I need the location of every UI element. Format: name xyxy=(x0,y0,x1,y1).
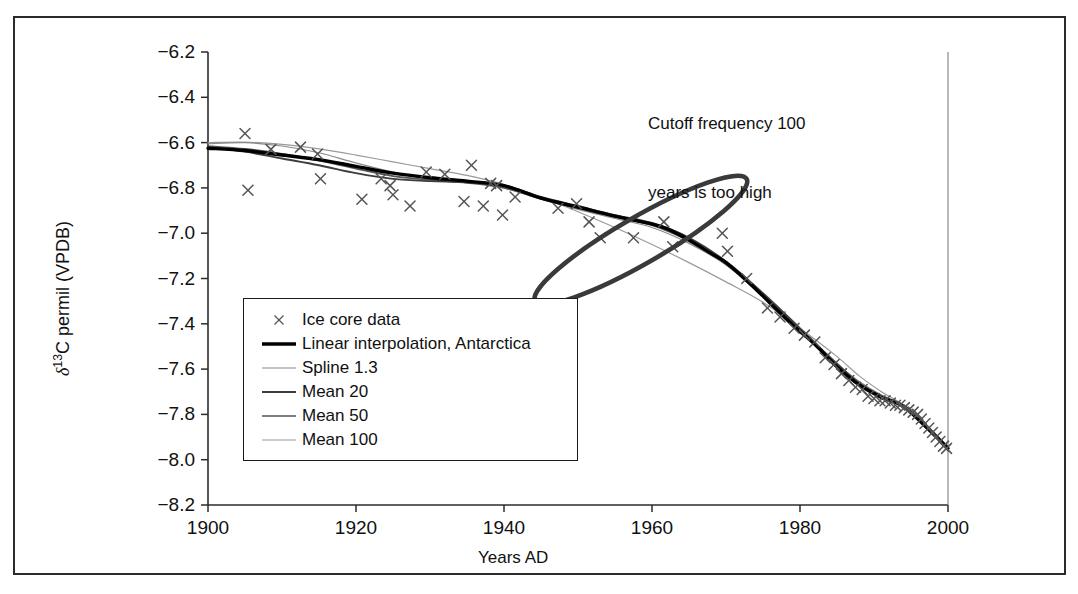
legend-item: Mean 50 xyxy=(244,404,577,428)
y-tick-label: −6.6 xyxy=(157,132,195,153)
y-tick-label: −7.4 xyxy=(157,313,195,334)
chart-canvas: −6.2−6.4−6.6−6.8−7.0−7.2−7.4−7.6−7.8−8.0… xyxy=(0,0,1078,594)
legend-item-label: Mean 100 xyxy=(302,430,378,450)
legend-line-swatch xyxy=(256,435,302,445)
y-axis-ticks: −6.2−6.4−6.6−6.8−7.0−7.2−7.4−7.6−7.8−8.0… xyxy=(157,41,208,515)
legend-line-swatch xyxy=(256,411,302,421)
x-tick-label: 1900 xyxy=(187,517,229,538)
legend-item: Ice core data xyxy=(244,308,577,332)
legend-item: Mean 100 xyxy=(244,428,577,452)
x-tick-label: 1980 xyxy=(779,517,821,538)
figure-root: −6.2−6.4−6.6−6.8−7.0−7.2−7.4−7.6−7.8−8.0… xyxy=(0,0,1078,594)
annotation-line-1: Cutoff frequency 100 xyxy=(648,112,806,135)
y-tick-label: −8.0 xyxy=(157,449,195,470)
x-tick-label: 1920 xyxy=(335,517,377,538)
legend-item-label: Linear interpolation, Antarctica xyxy=(302,334,531,354)
y-axis-label: δ13C permil (VPDB) xyxy=(30,159,95,459)
y-tick-label: −6.4 xyxy=(157,86,195,107)
x-tick-label: 2000 xyxy=(927,517,969,538)
y-tick-label: −7.0 xyxy=(157,222,195,243)
legend-item: Spline 1.3 xyxy=(244,356,577,380)
x-axis-ticks: 190019201940196019802000 xyxy=(187,505,969,538)
legend-item-label: Mean 20 xyxy=(302,382,368,402)
x-axis-label: Years AD xyxy=(478,548,548,568)
y-tick-label: −6.8 xyxy=(157,177,195,198)
legend-line-swatch xyxy=(256,339,302,349)
legend-item: Mean 20 xyxy=(244,380,577,404)
x-tick-label: 1940 xyxy=(483,517,525,538)
y-tick-label: −7.8 xyxy=(157,403,195,424)
y-tick-label: −8.2 xyxy=(157,494,195,515)
annotation-line-2: years is too high xyxy=(648,181,806,204)
x-tick-label: 1960 xyxy=(631,517,673,538)
legend-item-label: Spline 1.3 xyxy=(302,358,378,378)
y-tick-label: −7.2 xyxy=(157,268,195,289)
chart-legend: Ice core dataLinear interpolation, Antar… xyxy=(243,298,578,461)
y-tick-label: −6.2 xyxy=(157,41,195,62)
legend-line-swatch xyxy=(256,363,302,373)
legend-item: Linear interpolation, Antarctica xyxy=(244,332,577,356)
chart-annotation: Cutoff frequency 100 years is too high xyxy=(648,66,806,250)
legend-item-label: Ice core data xyxy=(302,310,400,330)
legend-item-label: Mean 50 xyxy=(302,406,368,426)
y-tick-label: −7.6 xyxy=(157,358,195,379)
legend-marker-x-icon xyxy=(256,312,302,328)
legend-line-swatch xyxy=(256,387,302,397)
